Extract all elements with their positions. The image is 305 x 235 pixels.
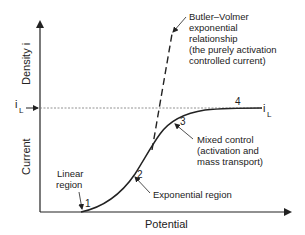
svg-text:mass transport): mass transport) <box>197 156 263 167</box>
limiting-current-sub-right: L <box>267 110 272 119</box>
mixed-control-annotation: Mixed control (activation and mass trans… <box>197 134 263 167</box>
svg-text:controlled current): controlled current) <box>189 55 266 66</box>
svg-text:relationship: relationship <box>189 33 238 44</box>
point-label-4: 4 <box>235 96 241 107</box>
butler-volmer-pointer <box>173 17 186 32</box>
point-label-3: 3 <box>180 116 186 127</box>
point-label-2: 2 <box>137 169 143 180</box>
limiting-current-label-right: i <box>263 102 265 114</box>
svg-text:Butler–Volmer: Butler–Volmer <box>189 11 249 22</box>
butler-volmer-annotation: Butler–Volmer exponential relationship (… <box>189 11 277 66</box>
limiting-current-sub-left: L <box>19 106 24 115</box>
x-axis-label: Potential <box>145 218 188 230</box>
svg-text:region: region <box>56 179 82 190</box>
svg-text:exponential: exponential <box>189 22 238 33</box>
svg-text:Linear: Linear <box>57 168 83 179</box>
polarization-diagram: Density i Current Potential i L i L 1 2 … <box>0 0 305 235</box>
linear-region-pointer <box>79 192 82 209</box>
svg-text:(the purely activation: (the purely activation <box>189 44 277 55</box>
y-axis-label-current: Current <box>20 138 32 175</box>
butler-volmer-curve <box>152 34 172 150</box>
diagram-svg: Density i Current Potential i L i L 1 2 … <box>0 0 305 235</box>
point-label-1: 1 <box>85 198 91 209</box>
limiting-current-label-left: i <box>15 98 17 110</box>
svg-text:(activation and: (activation and <box>197 145 259 156</box>
y-axis-label-density: Density i <box>20 43 32 85</box>
linear-region-annotation: Linear region <box>56 168 83 190</box>
exponential-region-annotation: Exponential region <box>153 189 232 200</box>
svg-text:Mixed control: Mixed control <box>197 134 254 145</box>
